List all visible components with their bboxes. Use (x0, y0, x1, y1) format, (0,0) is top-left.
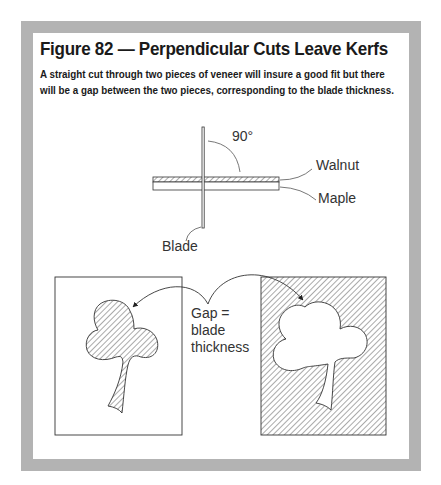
angle-arc (208, 141, 240, 172)
right-veneer-piece (261, 277, 386, 435)
blade (202, 127, 204, 228)
maple-layer (153, 182, 279, 190)
gap-label-line-1: Gap = (191, 305, 230, 321)
left-veneer-piece (55, 277, 182, 435)
veneer-stack (153, 177, 279, 190)
walnut-label: Walnut (316, 157, 359, 173)
gap-label-line-3: thickness (191, 339, 249, 355)
angle-label: 90° (232, 128, 253, 144)
gap-label-line-2: blade (191, 322, 225, 338)
walnut-leader (280, 169, 312, 180)
walnut-layer (153, 177, 279, 182)
maple-leader (280, 187, 316, 200)
maple-label: Maple (318, 190, 356, 206)
blade-label: Blade (162, 238, 198, 254)
kerf-diagram: 90° Walnut Maple Blade Gap = blade thick… (0, 0, 441, 485)
